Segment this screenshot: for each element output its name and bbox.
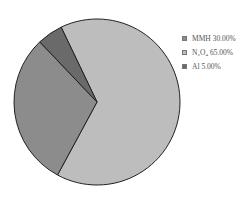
legend: MMH 30.00% N₂O₄ 65.00% Al 5.00% [182, 31, 236, 73]
legend-label: Al 5.00% [192, 62, 221, 71]
legend-item-al: Al 5.00% [182, 59, 236, 73]
legend-swatch [182, 36, 187, 41]
legend-label: MMH 30.00% [192, 34, 236, 43]
legend-swatch [182, 64, 187, 69]
legend-item-n2o4: N₂O₄ 65.00% [182, 45, 236, 59]
legend-swatch [182, 50, 187, 55]
legend-item-mmh: MMH 30.00% [182, 31, 236, 45]
legend-label: N₂O₄ 65.00% [192, 48, 233, 57]
pie-chart [0, 0, 245, 198]
